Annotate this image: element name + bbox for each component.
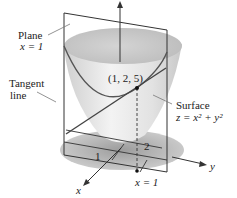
leader-tangent <box>37 92 56 102</box>
point-label: (1, 2, 5) <box>108 72 143 84</box>
y-axis-arrowhead <box>199 161 207 167</box>
paraboloid-tangent-diagram: Plane x = 1 Tangent line (1, 2, 5) Surfa… <box>0 0 237 198</box>
tick-label-x: 1 <box>95 150 101 162</box>
x-equals-1-label: x = 1 <box>135 176 158 188</box>
x-axis-label: x <box>76 184 81 196</box>
tick-label-y: 2 <box>144 140 150 152</box>
plane-label-eq: x = 1 <box>20 40 43 52</box>
point-1-2-5 <box>135 86 139 90</box>
y-axis-label: y <box>210 160 215 172</box>
surface-label-eq: z = x² + y² <box>176 111 223 123</box>
y-axis <box>172 157 203 164</box>
surface-label-title: Surface <box>176 99 210 111</box>
z-axis-arrowhead <box>117 1 123 8</box>
leader-plane <box>48 24 70 35</box>
tangent-label-2: line <box>10 89 27 101</box>
point-base <box>135 169 139 173</box>
tangent-label-1: Tangent <box>9 77 44 89</box>
